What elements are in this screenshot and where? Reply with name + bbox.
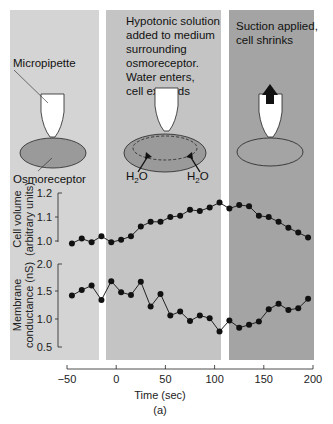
- svg-text:1.0: 1.0: [37, 235, 52, 247]
- panel-label: (a): [153, 404, 166, 416]
- svg-text:1.0: 1.0: [37, 313, 52, 325]
- data-point: [285, 307, 291, 313]
- data-point: [118, 237, 124, 243]
- x-tick-label: −50: [58, 373, 77, 385]
- x-tick-label: 0: [113, 373, 119, 385]
- data-point: [108, 278, 114, 284]
- suction-arrow-shaft: [266, 94, 274, 104]
- x-tick-label: 150: [255, 373, 273, 385]
- data-point: [138, 279, 144, 285]
- data-point: [98, 233, 104, 239]
- svg-text:1.1: 1.1: [37, 211, 52, 223]
- data-point: [285, 225, 291, 231]
- data-point: [177, 309, 183, 315]
- data-point: [79, 236, 85, 242]
- data-point: [276, 301, 282, 307]
- svg-text:Time (sec): Time (sec): [134, 389, 186, 401]
- data-point: [276, 219, 282, 225]
- data-point: [217, 200, 223, 206]
- data-point: [157, 291, 163, 297]
- data-point: [118, 289, 124, 295]
- data-point: [256, 319, 262, 325]
- data-point: [167, 214, 173, 220]
- data-point: [89, 239, 95, 245]
- data-point: [167, 312, 173, 318]
- svg-text:2.0: 2.0: [37, 258, 52, 270]
- data-point: [236, 202, 242, 208]
- data-point: [187, 318, 193, 324]
- data-point: [98, 297, 104, 303]
- data-point: [197, 312, 203, 318]
- data-point: [246, 203, 252, 209]
- x-tick-label: 50: [159, 373, 171, 385]
- data-point: [177, 213, 183, 219]
- data-point: [217, 329, 223, 335]
- svg-text:Cell volume: Cell volume: [11, 190, 23, 247]
- data-point: [226, 206, 232, 212]
- data-point: [69, 293, 75, 299]
- svg-text:0.5: 0.5: [37, 341, 52, 353]
- svg-text:Membrane: Membrane: [11, 279, 23, 332]
- data-point: [108, 239, 114, 245]
- micropipette-label: Micropipette: [13, 57, 76, 69]
- svg-text:1.2: 1.2: [37, 187, 52, 199]
- svg-text:conductance (nS): conductance (nS): [23, 262, 35, 348]
- data-point: [295, 230, 301, 236]
- osmoreceptor-figure: Micropipette Osmoreceptor Hypotonic solu…: [0, 0, 333, 424]
- data-point: [295, 305, 301, 311]
- data-point: [69, 240, 75, 246]
- data-point: [89, 283, 95, 289]
- data-point: [266, 306, 272, 312]
- data-point: [128, 292, 134, 298]
- data-point: [207, 315, 213, 321]
- data-point: [138, 224, 144, 230]
- data-point: [305, 234, 311, 240]
- time-axis: −50050100150200 Time (sec) (a): [58, 365, 323, 416]
- data-point: [148, 304, 154, 310]
- osmoreceptor-cell: [20, 138, 86, 168]
- data-point: [256, 213, 262, 219]
- data-point: [187, 207, 193, 213]
- data-point: [266, 214, 272, 220]
- data-point: [236, 325, 242, 331]
- data-point: [128, 233, 134, 239]
- data-point: [157, 219, 163, 225]
- data-point: [197, 208, 203, 214]
- x-tick-label: 200: [304, 373, 322, 385]
- data-point: [207, 204, 213, 210]
- data-point: [79, 287, 85, 293]
- svg-text:(arbitrary units): (arbitrary units): [23, 182, 35, 256]
- x-tick-label: 100: [205, 373, 223, 385]
- svg-text:1.5: 1.5: [37, 285, 52, 297]
- data-point: [246, 322, 252, 328]
- shrunk-cell: [237, 138, 303, 166]
- data-point: [148, 219, 154, 225]
- data-point: [226, 317, 232, 323]
- data-point: [305, 296, 311, 302]
